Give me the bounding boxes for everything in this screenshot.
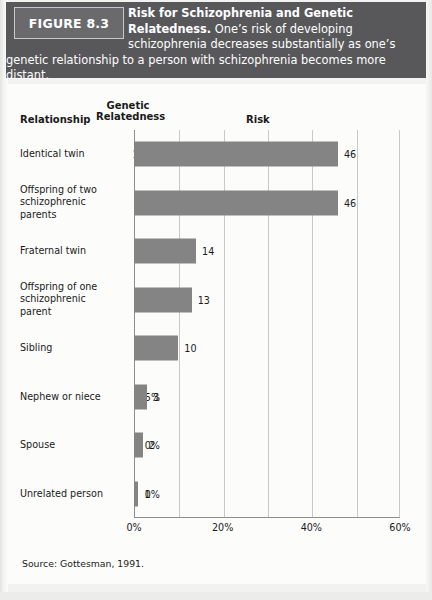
x-tick-0%: 0% (126, 522, 141, 533)
chart-rows: Identical twin100%46Offspring of twoschi… (8, 130, 426, 518)
bar-value-label: 10 (184, 343, 196, 354)
chart-row: Offspring of twoschizophrenicparents50%4… (8, 179, 426, 228)
bar (134, 384, 147, 409)
row-label-line: Offspring of one (20, 281, 104, 293)
column-header-genetic-line1: Genetic (96, 100, 160, 111)
column-header-risk: Risk (246, 114, 270, 125)
row-label-line: Unrelated person (20, 488, 104, 500)
row-label-line: Identical twin (20, 148, 104, 160)
bar (134, 336, 178, 361)
chart-row: Sibling50%10 (8, 324, 426, 373)
row-genetic-relatedness: 0% (104, 488, 160, 499)
x-axis-tick-labels: 0%20%40%60% (8, 522, 426, 540)
bar-value-label: 13 (198, 294, 210, 305)
row-label: Sibling (20, 342, 104, 354)
row-label-line: Offspring of two (20, 184, 104, 196)
chart-row: Nephew or niece25%3 (8, 373, 426, 422)
row-label-line: schizophrenic (20, 294, 104, 306)
chart-row: Fraternal twin50%14 (8, 227, 426, 276)
page-gutter-bottom (0, 592, 432, 600)
x-tick-20%: 20% (212, 522, 233, 533)
chart-row: Unrelated person0%1 (8, 470, 426, 519)
bar-value-label: 46 (344, 197, 356, 208)
x-tick-60%: 60% (389, 522, 410, 533)
chart-panel: Relationship Genetic Relatedness Risk Id… (8, 84, 426, 584)
row-label: Fraternal twin (20, 245, 104, 257)
row-label: Offspring of oneschizophrenicparent (20, 281, 104, 318)
row-label-line: Fraternal twin (20, 245, 104, 257)
column-header-genetic-relatedness: Genetic Relatedness (96, 100, 160, 122)
bar (134, 433, 143, 458)
figure-header-banner: Risk for Schizophrenia and Genetic Relat… (6, 2, 426, 78)
row-genetic-relatedness: 25% (104, 391, 160, 402)
row-label-line: Spouse (20, 439, 104, 451)
bar (134, 287, 192, 312)
chart-row: Spouse0%2 (8, 421, 426, 470)
row-label: Offspring of twoschizophrenicparents (20, 184, 104, 221)
column-header-genetic-line2: Relatedness (96, 111, 160, 122)
row-label: Identical twin (20, 148, 104, 160)
figure-number-tag: FIGURE 8.3 (14, 7, 124, 39)
row-label-line: Nephew or niece (20, 391, 104, 403)
bar (134, 481, 138, 506)
row-label-line: parents (20, 209, 104, 221)
page-gutter-left (0, 0, 8, 600)
column-header-relationship: Relationship (20, 114, 91, 125)
row-label: Spouse (20, 439, 104, 451)
bar-value-label: 3 (153, 391, 159, 402)
bar (134, 142, 338, 167)
source-note: Source: Gottesman, 1991. (22, 558, 144, 569)
bar-value-label: 1 (144, 488, 150, 499)
figure-page: Risk for Schizophrenia and Genetic Relat… (0, 0, 432, 600)
row-label: Nephew or niece (20, 391, 104, 403)
bar (134, 190, 338, 215)
chart-row: Offspring of oneschizophrenicparent50%13 (8, 276, 426, 325)
row-label-line: Sibling (20, 342, 104, 354)
bar-value-label: 2 (149, 440, 155, 451)
row-label-line: parent (20, 306, 104, 318)
bar-value-label: 14 (202, 246, 214, 257)
bar (134, 239, 196, 264)
bar-value-label: 46 (344, 149, 356, 160)
page-gutter-right (426, 0, 432, 600)
row-label-line: schizophrenic (20, 197, 104, 209)
x-tick-40%: 40% (301, 522, 322, 533)
row-label: Unrelated person (20, 488, 104, 500)
chart-row: Identical twin100%46 (8, 130, 426, 179)
